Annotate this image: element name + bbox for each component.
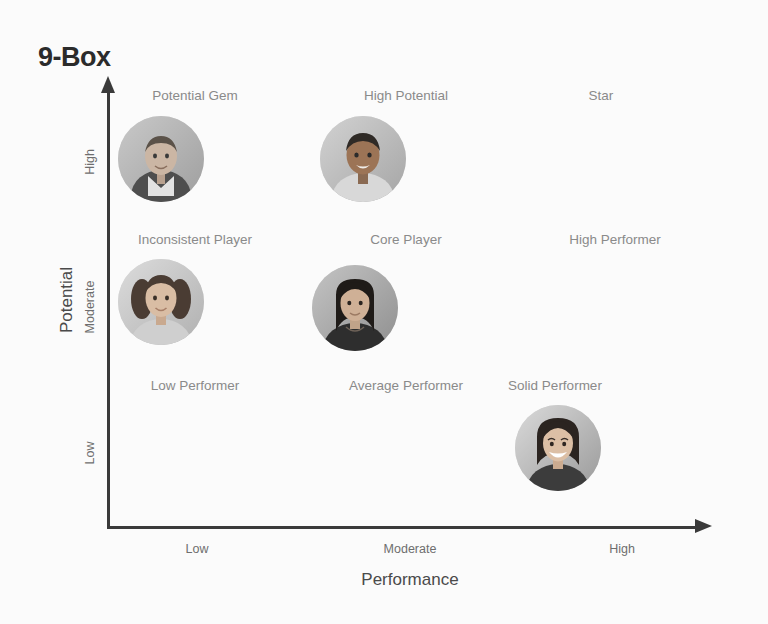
avatar-high-potential[interactable] bbox=[320, 116, 406, 202]
cell-label-star: Star bbox=[491, 88, 711, 103]
nine-box-chart: 9-Box Potential High Moderate Low Perfor… bbox=[0, 0, 768, 624]
x-axis-line bbox=[107, 526, 699, 529]
x-axis-tick-low: Low bbox=[127, 542, 267, 556]
cell-label-low-performer: Low Performer bbox=[85, 378, 305, 393]
y-axis-line bbox=[107, 92, 110, 528]
y-axis-tick-moderate: Moderate bbox=[83, 252, 97, 362]
cell-label-inconsistent-player: Inconsistent Player bbox=[85, 232, 305, 247]
avatar-solid-performer[interactable] bbox=[515, 405, 601, 491]
cell-label-core-player: Core Player bbox=[296, 232, 516, 247]
x-axis-tick-moderate: Moderate bbox=[340, 542, 480, 556]
x-axis-arrow-icon bbox=[695, 519, 712, 533]
cell-label-solid-performer: Solid Performer bbox=[445, 378, 665, 393]
y-axis-tick-low: Low bbox=[83, 398, 97, 508]
x-axis-tick-high: High bbox=[552, 542, 692, 556]
cell-label-high-potential: High Potential bbox=[296, 88, 516, 103]
cell-label-high-performer: High Performer bbox=[505, 232, 725, 247]
y-axis-tick-high: High bbox=[83, 107, 97, 217]
y-axis-title: Potential bbox=[57, 230, 77, 370]
avatar-inconsistent-player[interactable] bbox=[118, 259, 204, 345]
x-axis-title: Performance bbox=[320, 570, 500, 590]
cell-label-potential-gem: Potential Gem bbox=[85, 88, 305, 103]
avatar-potential-gem[interactable] bbox=[118, 116, 204, 202]
avatar-core-player[interactable] bbox=[312, 265, 398, 351]
page-title: 9-Box bbox=[38, 42, 111, 73]
